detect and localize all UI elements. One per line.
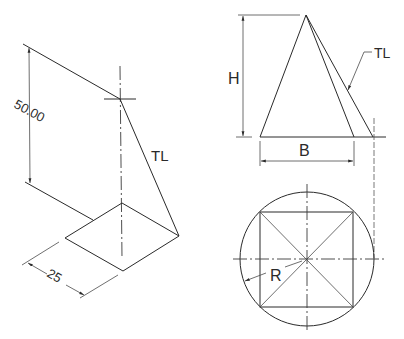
true-length-label-right: TL xyxy=(374,45,391,61)
radius-leader-outer xyxy=(245,273,266,281)
axis-centerline xyxy=(120,66,122,258)
base-dimension-line-a xyxy=(28,263,47,274)
left-edge xyxy=(260,15,306,137)
true-length-label-left: TL xyxy=(151,147,169,164)
true-length-leader xyxy=(348,52,372,90)
projection-line-top xyxy=(23,44,120,99)
base-extension-line-1 xyxy=(22,242,59,265)
true-length-edge xyxy=(306,15,373,137)
radius-leader-inner xyxy=(285,261,302,267)
height-label: H xyxy=(228,70,240,87)
front-elevation-view: H B TL xyxy=(228,15,391,258)
top-plan-view: R xyxy=(233,184,385,332)
base-dimension-line-b xyxy=(66,285,84,295)
base-dimension-label: 25 xyxy=(45,266,65,286)
base-extension-line-2 xyxy=(80,275,118,298)
true-length-edge xyxy=(120,99,179,236)
projection-line-bottom xyxy=(25,182,93,220)
isometric-pyramid-view: 50.00 25 TL xyxy=(12,44,179,298)
inner-edge xyxy=(306,15,354,137)
technical-drawing: 50.00 25 TL H B TL R xyxy=(0,0,404,339)
radius-label: R xyxy=(270,267,282,284)
base-label: B xyxy=(299,142,310,159)
